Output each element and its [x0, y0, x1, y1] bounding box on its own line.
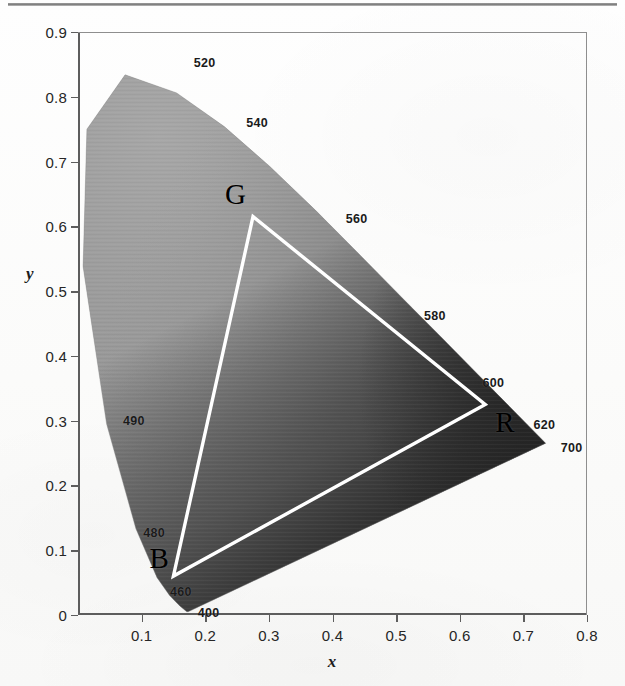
- primary-vertex-label-g: G: [225, 180, 246, 209]
- y-tick-label: 0: [58, 607, 67, 624]
- y-tick-label: 0.4: [46, 347, 67, 364]
- x-tick-label: 0.1: [131, 627, 152, 644]
- wavelength-label: 480: [143, 526, 165, 540]
- y-axis-title: y: [26, 264, 34, 284]
- y-tick-label: 0.1: [46, 542, 67, 559]
- y-tick-mark: [71, 421, 78, 422]
- x-tick-mark: [142, 615, 143, 622]
- x-tick-mark: [333, 615, 334, 622]
- top-horizontal-rule: [8, 3, 617, 6]
- wavelength-label: 540: [246, 116, 268, 130]
- y-tick-mark: [71, 97, 78, 98]
- wavelength-label: 460: [170, 585, 192, 599]
- x-axis-title: x: [328, 652, 337, 672]
- wavelength-label: 600: [482, 376, 504, 390]
- y-tick-mark: [71, 356, 78, 357]
- y-tick-label: 0.8: [46, 88, 67, 105]
- y-tick-mark: [71, 550, 78, 551]
- y-tick-label: 0.5: [46, 283, 67, 300]
- wavelength-label: 580: [424, 309, 446, 323]
- wavelength-label: 700: [561, 441, 583, 455]
- wavelength-label: 400: [198, 606, 220, 620]
- primary-vertex-label-r: R: [495, 408, 514, 437]
- wavelength-label: 620: [533, 418, 555, 432]
- wavelength-label: 520: [194, 56, 216, 70]
- x-tick-mark: [396, 615, 397, 622]
- y-tick-mark: [71, 226, 78, 227]
- wavelength-label: 490: [123, 414, 145, 428]
- figure-page: 00.10.20.30.40.50.60.70.80.9 0.10.20.30.…: [0, 0, 625, 686]
- x-tick-mark: [269, 615, 270, 622]
- x-tick-label: 0.7: [513, 627, 534, 644]
- y-tick-mark: [71, 485, 78, 486]
- y-tick-label: 0.2: [46, 477, 67, 494]
- x-tick-mark: [523, 615, 524, 622]
- y-tick-label: 0.9: [46, 24, 67, 41]
- x-tick-label: 0.8: [576, 627, 597, 644]
- y-tick-mark: [71, 32, 78, 33]
- y-tick-mark: [71, 162, 78, 163]
- x-tick-mark: [460, 615, 461, 622]
- chromaticity-plot: 00.10.20.30.40.50.60.70.80.9 0.10.20.30.…: [78, 32, 587, 615]
- x-tick-label: 0.5: [385, 627, 406, 644]
- y-tick-label: 0.3: [46, 412, 67, 429]
- y-tick-label: 0.6: [46, 218, 67, 235]
- x-tick-label: 0.3: [258, 627, 279, 644]
- wavelength-label: 560: [346, 212, 368, 226]
- primary-vertex-label-b: B: [149, 544, 168, 573]
- x-tick-mark: [587, 615, 588, 622]
- y-tick-mark: [71, 615, 78, 616]
- y-tick-label: 0.7: [46, 153, 67, 170]
- x-tick-label: 0.4: [322, 627, 343, 644]
- x-tick-label: 0.6: [449, 627, 470, 644]
- x-tick-label: 0.2: [195, 627, 216, 644]
- y-tick-mark: [71, 291, 78, 292]
